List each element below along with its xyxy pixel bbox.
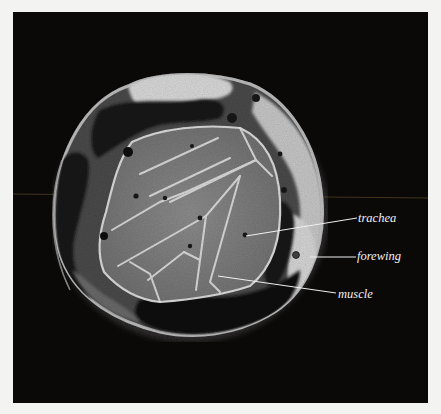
- specimen: [52, 73, 328, 342]
- muscle-label: muscle: [338, 288, 373, 301]
- mri-cross-section-figure: [0, 0, 441, 414]
- forewing-label: forewing: [357, 250, 401, 263]
- trachea-label: trachea: [358, 212, 396, 225]
